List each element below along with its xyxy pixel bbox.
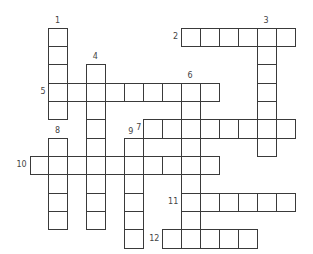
clue-number-3: 3 [263,17,268,25]
crossword-cell[interactable] [124,229,144,248]
crossword-cell[interactable] [257,83,277,102]
crossword-cell[interactable] [200,229,220,248]
crossword-cell[interactable] [181,101,201,120]
crossword-cell[interactable] [276,28,296,47]
crossword-cell[interactable] [238,229,258,248]
crossword-cell[interactable] [86,174,106,193]
crossword-cell[interactable] [181,83,201,102]
crossword-cell[interactable] [181,229,201,248]
crossword-cell[interactable] [48,156,68,175]
crossword-cell[interactable] [124,211,144,230]
crossword-cell[interactable] [48,83,68,102]
crossword-cell[interactable] [124,193,144,212]
crossword-cell[interactable] [238,119,258,138]
crossword-cell[interactable] [200,119,220,138]
crossword-cell[interactable] [181,28,201,47]
crossword-cell[interactable] [67,156,87,175]
crossword-cell[interactable] [181,211,201,230]
crossword-cell[interactable] [48,101,68,120]
crossword-cell[interactable] [48,138,68,157]
clue-number-12: 12 [149,235,159,243]
crossword-cell[interactable] [86,83,106,102]
crossword-cell[interactable] [48,174,68,193]
crossword-cell[interactable] [200,83,220,102]
crossword-cell[interactable] [257,138,277,157]
crossword-cell[interactable] [200,193,220,212]
crossword-cell[interactable] [181,193,201,212]
crossword-cell[interactable] [86,64,106,83]
crossword-cell[interactable] [143,156,163,175]
crossword-cell[interactable] [124,83,144,102]
crossword-cell[interactable] [124,138,144,157]
crossword-cell[interactable] [143,83,163,102]
crossword-cell[interactable] [48,46,68,65]
crossword-cell[interactable] [86,193,106,212]
clue-number-10: 10 [17,161,27,169]
crossword-cell[interactable] [105,156,125,175]
crossword-cell[interactable] [257,64,277,83]
crossword-cell[interactable] [238,28,258,47]
crossword-cell[interactable] [219,193,239,212]
crossword-cell[interactable] [86,119,106,138]
crossword-cell[interactable] [124,174,144,193]
crossword-cell[interactable] [86,101,106,120]
crossword-cell[interactable] [48,193,68,212]
crossword-cell[interactable] [162,119,182,138]
crossword-cell[interactable] [124,156,144,175]
crossword-cell[interactable] [86,156,106,175]
crossword-cell[interactable] [257,193,277,212]
clue-number-4: 4 [93,53,98,61]
clue-number-11: 11 [168,198,178,206]
crossword-cell[interactable] [219,28,239,47]
clue-number-2: 2 [173,33,178,41]
crossword-cell[interactable] [276,119,296,138]
crossword-cell[interactable] [257,46,277,65]
crossword-cell[interactable] [143,119,163,138]
crossword-cell[interactable] [105,83,125,102]
clue-number-5: 5 [40,88,45,96]
crossword-cell[interactable] [200,156,220,175]
clue-number-6: 6 [188,72,193,80]
crossword-cell[interactable] [162,83,182,102]
crossword-cell[interactable] [276,193,296,212]
crossword-cell[interactable] [219,229,239,248]
crossword-cell[interactable] [30,156,50,175]
clue-number-9: 9 [128,128,133,136]
crossword-cell[interactable] [48,211,68,230]
crossword-cell[interactable] [181,119,201,138]
crossword-cell[interactable] [181,174,201,193]
crossword-cell[interactable] [219,119,239,138]
crossword-cell[interactable] [162,156,182,175]
crossword-cell[interactable] [257,28,277,47]
crossword-cell[interactable] [67,83,87,102]
clue-number-8: 8 [55,127,60,135]
crossword-cell[interactable] [48,28,68,47]
crossword-cell[interactable] [86,138,106,157]
crossword-cell[interactable] [181,156,201,175]
clue-number-7: 7 [136,124,141,132]
crossword-cell[interactable] [48,64,68,83]
crossword-cell[interactable] [181,138,201,157]
crossword-cell[interactable] [86,211,106,230]
clue-number-1: 1 [55,17,60,25]
crossword-grid: 123456789101112 [0,0,313,254]
crossword-cell[interactable] [200,28,220,47]
crossword-cell[interactable] [257,101,277,120]
crossword-cell[interactable] [162,229,182,248]
crossword-cell[interactable] [238,193,258,212]
crossword-cell[interactable] [257,119,277,138]
